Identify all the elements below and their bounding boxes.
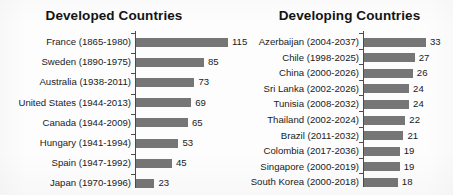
bar: [136, 98, 191, 107]
bar-value-label: 45: [176, 158, 187, 168]
axis-tick: [359, 80, 363, 81]
chart-title-developed: Developed Countries: [0, 8, 228, 23]
axis-tick: [131, 154, 135, 155]
bar: [364, 147, 400, 156]
category-label: Hungary (1941-1994): [0, 138, 131, 148]
bar-value-label: 19: [404, 162, 415, 172]
axis-tick: [131, 53, 135, 54]
bar-value-label: 115: [232, 37, 247, 47]
panel-developing-countries: Developing Countries Azerbaijan (2004-20…: [246, 0, 453, 195]
category-label: Thailand (2002-2024): [246, 115, 359, 125]
category-label: South Korea (2000-2018): [246, 177, 359, 187]
axis-tick: [359, 49, 363, 50]
bar: [364, 69, 413, 78]
bar-value-label: 33: [430, 37, 441, 47]
category-label: Chile (1998-2025): [246, 53, 359, 63]
bar-value-label: 24: [413, 99, 424, 109]
bar: [364, 116, 405, 125]
bar: [136, 38, 228, 47]
bar-value-label: 85: [208, 57, 219, 67]
category-label: Japan (1970-1996): [0, 178, 131, 188]
axis-tick: [131, 73, 135, 74]
category-label: Tunisia (2008-2032): [246, 99, 359, 109]
axis-tick: [131, 94, 135, 95]
axis-tick: [131, 33, 135, 34]
category-label: Australia (1938-2011): [0, 77, 131, 87]
chart-title-developing: Developing Countries: [246, 8, 453, 23]
bar-value-label: 73: [198, 77, 209, 87]
category-label: China (2000-2026): [246, 68, 359, 78]
bar-value-label: 65: [192, 118, 203, 128]
bar: [136, 179, 154, 188]
bar-value-label: 53: [182, 138, 193, 148]
category-label: United States (1944-2013): [0, 98, 131, 108]
axis-tick: [359, 127, 363, 128]
axis-tick: [359, 142, 363, 143]
bar-value-label: 23: [158, 178, 169, 188]
axis-tick: [131, 134, 135, 135]
bar-value-label: 22: [409, 115, 420, 125]
category-label: Brazil (2011-2032): [246, 131, 359, 141]
category-label: France (1865-1980): [0, 37, 131, 47]
bar: [136, 118, 188, 127]
axis-tick: [359, 95, 363, 96]
bar: [364, 162, 400, 171]
axis-tick: [359, 111, 363, 112]
category-label: Azerbaijan (2004-2037): [246, 37, 359, 47]
bar-value-label: 18: [402, 177, 413, 187]
category-label: Sri Lanka (2002-2026): [246, 84, 359, 94]
bar-value-label: 21: [407, 131, 418, 141]
plot-area-developed: France (1865-1980)115Sweden (1890-1975)8…: [0, 31, 246, 191]
bar-value-label: 26: [417, 68, 428, 78]
category-label: Canada (1944-2009): [0, 118, 131, 128]
bar: [364, 38, 426, 47]
category-label: Singapore (2000-2019): [246, 162, 359, 172]
axis-tick: [359, 64, 363, 65]
bar: [136, 159, 172, 168]
plot-area-developing: Azerbaijan (2004-2037)33Chile (1998-2025…: [246, 31, 453, 191]
axis-tick: [359, 158, 363, 159]
bar: [136, 78, 194, 87]
category-label: Colombia (2017-2036): [246, 146, 359, 156]
axis-tick: [131, 114, 135, 115]
axis-tick: [131, 174, 135, 175]
category-label: Spain (1947-1992): [0, 158, 131, 168]
bar-value-label: 69: [195, 98, 206, 108]
axis-tick: [359, 33, 363, 34]
panel-developed-countries: Developed Countries France (1865-1980)11…: [0, 0, 246, 195]
bar-value-label: 27: [419, 53, 430, 63]
bar: [136, 58, 204, 67]
bar: [136, 139, 178, 148]
bar: [364, 178, 398, 187]
axis-tick: [359, 173, 363, 174]
bar-value-label: 24: [413, 84, 424, 94]
bar: [364, 131, 403, 140]
bar-value-label: 19: [404, 146, 415, 156]
bar: [364, 84, 409, 93]
bar: [364, 100, 409, 109]
bar: [364, 53, 415, 62]
category-label: Sweden (1890-1975): [0, 57, 131, 67]
chart-figure: Developed Countries France (1865-1980)11…: [0, 0, 453, 195]
